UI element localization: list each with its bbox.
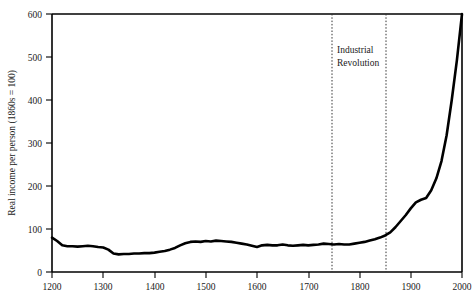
x-tick-label-1300: 1300 [94, 282, 113, 292]
y-tick-label-400: 400 [28, 96, 43, 106]
y-tick-label-600: 600 [28, 10, 43, 20]
x-tick-label-1400: 1400 [146, 282, 165, 292]
x-tick-label-1500: 1500 [197, 282, 216, 292]
x-tick-label-1800: 1800 [351, 282, 370, 292]
x-tick-label-2000: 2000 [453, 282, 472, 292]
y-tick-label-0: 0 [37, 268, 42, 278]
y-tick-label-100: 100 [28, 225, 43, 235]
y-tick-label-300: 300 [28, 139, 43, 149]
x-tick-label-1700: 1700 [300, 282, 319, 292]
industrial-revolution-label-line2: Revolution [337, 58, 379, 68]
chart-background [0, 0, 476, 305]
y-tick-label-500: 500 [28, 53, 43, 63]
y-axis-title: Real income per person (1860s = 100) [7, 70, 18, 216]
x-tick-label-1600: 1600 [248, 282, 267, 292]
y-tick-label-200: 200 [28, 182, 43, 192]
x-tick-label-1900: 1900 [402, 282, 421, 292]
industrial-revolution-label-line1: Industrial [337, 45, 374, 55]
figure-container: Real income per person (1860s = 100) 0 1… [0, 0, 476, 305]
income-history-line-chart: Real income per person (1860s = 100) 0 1… [0, 0, 476, 305]
x-tick-label-1200: 1200 [43, 282, 62, 292]
